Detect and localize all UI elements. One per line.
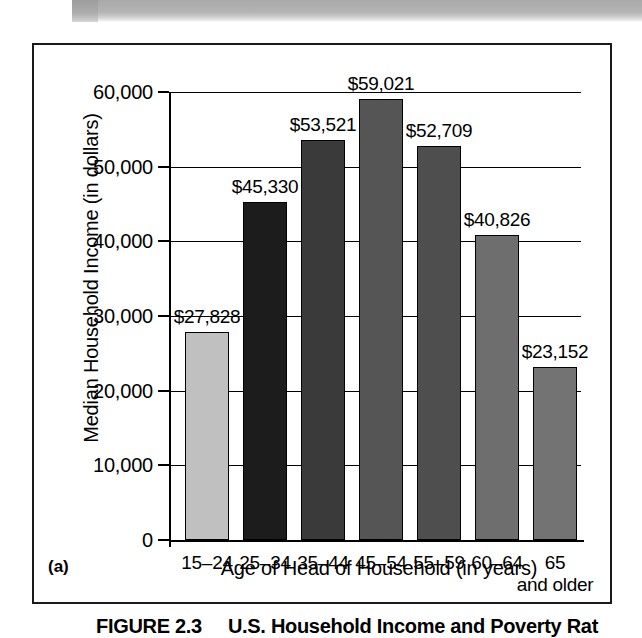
figure-caption: FIGURE 2.3U.S. Household Income and Pove… (96, 615, 642, 638)
y-axis-tick-label: 30,000 (93, 305, 153, 328)
bar-group[interactable]: $53,52135–44 (301, 93, 345, 540)
panel-label: (a) (48, 557, 69, 577)
bar-value-label: $45,330 (232, 176, 299, 198)
plot-area: 010,00020,00030,00040,00050,00060,000 $2… (169, 85, 589, 550)
figure-caption-text: U.S. Household Income and Poverty Rat (228, 615, 598, 637)
bar-value-label: $40,826 (464, 209, 531, 231)
scan-gray-band-left (72, 0, 98, 22)
y-axis-tick (158, 91, 169, 93)
y-axis-title-container: Median Household Income (in dollars) (78, 45, 104, 510)
bar[interactable]: $52,709 (417, 146, 461, 540)
y-axis-tick (158, 315, 169, 317)
bar-value-label: $23,152 (522, 341, 589, 363)
bar[interactable]: $40,826 (475, 235, 519, 540)
y-axis-tick (158, 390, 169, 392)
y-axis-tick-label: 40,000 (93, 230, 153, 253)
y-axis-tick (158, 464, 169, 466)
bar[interactable]: $53,521 (301, 140, 345, 540)
bar-value-label: $59,021 (348, 73, 415, 95)
bar-group[interactable]: $40,82660–64 (475, 93, 519, 540)
bar-value-label: $52,709 (406, 120, 473, 142)
figure-frame: Median Household Income (in dollars) 010… (32, 43, 612, 604)
y-axis-tick (158, 166, 169, 168)
y-axis-tick-label: 10,000 (93, 454, 153, 477)
bar-value-label: $27,828 (174, 306, 241, 328)
bar[interactable]: $59,021 (359, 99, 403, 540)
bar-group[interactable]: $27,82815–24 (185, 93, 229, 540)
y-axis-tick-label: 50,000 (93, 155, 153, 178)
bar-group[interactable]: $45,33025–34 (243, 93, 287, 540)
bar-series: $27,82815–24$45,33025–34$53,52135–44$59,… (171, 93, 583, 540)
y-axis-tick-label: 60,000 (93, 81, 153, 104)
bar[interactable]: $27,828 (185, 332, 229, 540)
x-axis-title: Age of Head of Household (in years) (169, 557, 589, 580)
y-axis-tick (158, 240, 169, 242)
figure-caption-number: FIGURE 2.3 (96, 615, 202, 637)
bar-group[interactable]: $59,02145–54 (359, 93, 403, 540)
bar[interactable]: $45,330 (243, 202, 287, 540)
bar[interactable]: $23,152 (533, 367, 577, 540)
scan-gray-band (72, 0, 642, 22)
y-axis-tick (158, 539, 169, 541)
x-axis-line (169, 540, 584, 542)
y-axis-tick-label: 0 (142, 529, 153, 552)
bar-group[interactable]: $52,70955–59 (417, 93, 461, 540)
bar-value-label: $53,521 (290, 114, 357, 136)
y-axis-tick-label: 20,000 (93, 379, 153, 402)
bar-group[interactable]: $23,15265and older (533, 93, 577, 540)
